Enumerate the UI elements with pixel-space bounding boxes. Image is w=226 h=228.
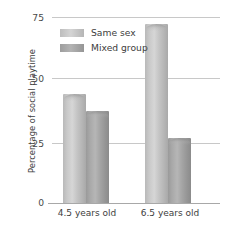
bar-top-cap [86, 111, 109, 118]
bar-top-cap [168, 138, 191, 145]
y-axis-title: Percentage of social playtime [27, 16, 37, 206]
bar-4-5-same-sex[interactable] [63, 94, 86, 203]
legend: Same sex Mixed group [60, 26, 148, 56]
bar-chart: Percentage of social playtime 75 50 25 0… [0, 0, 226, 228]
legend-swatch-icon-same-sex [60, 29, 84, 37]
gridline-75 [52, 17, 220, 18]
legend-item-same-sex[interactable]: Same sex [60, 26, 148, 39]
bar-6-5-same-sex[interactable] [145, 24, 168, 203]
y-tick-label-50: 50 [16, 73, 44, 84]
bar-top-cap [145, 24, 168, 31]
y-tick-label-75: 75 [16, 12, 44, 23]
y-tick-label-0: 0 [16, 197, 44, 208]
x-tick-label-4-5-years: 4.5 years old [44, 208, 130, 218]
bar-top-cap [63, 94, 86, 101]
bar-4-5-mixed-group[interactable] [86, 111, 109, 203]
legend-label-same-sex: Same sex [91, 27, 136, 38]
gridline-50 [52, 78, 220, 79]
bar-6-5-mixed-group[interactable] [168, 138, 191, 203]
legend-swatch-icon-mixed-group [60, 44, 84, 52]
y-tick-label-25: 25 [16, 138, 44, 149]
axis-baseline [48, 203, 220, 204]
legend-label-mixed-group: Mixed group [91, 42, 148, 53]
legend-item-mixed-group[interactable]: Mixed group [60, 41, 148, 54]
x-tick-label-6-5-years: 6.5 years old [127, 208, 213, 218]
